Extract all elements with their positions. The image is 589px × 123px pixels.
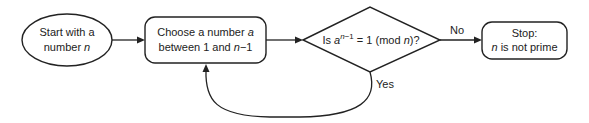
test-question: Is an−1 = 1 (mod n)? [322,32,419,46]
arrowhead-icon [474,37,482,44]
edge-label-yes: Yes [376,78,394,90]
stop-line1: Stop: [512,27,538,39]
arrowhead-icon [137,37,145,44]
edge-choose-to-test [266,37,303,44]
start-line1: Start with a [39,26,95,38]
choose-line1: Choose a number a [157,26,254,38]
start-line2: number n [44,41,90,53]
edge-start-to-choose [112,37,145,44]
edge-test-to-stop: No [440,24,482,44]
start-node: Start with a number n [22,14,112,66]
stop-node: Stop: n is not prime [482,22,567,59]
arrowhead-icon [203,64,210,72]
choose-line2: between 1 and n−1 [159,41,253,53]
flowchart: Start with a number n Choose a number a … [0,0,589,123]
stop-line2: n is not prime [491,41,557,53]
edge-label-no: No [450,24,464,36]
edge-test-to-choose: Yes [203,64,395,117]
choose-node: Choose a number a between 1 and n−1 [145,17,266,63]
test-node: Is an−1 = 1 (mod n)? [303,7,440,72]
